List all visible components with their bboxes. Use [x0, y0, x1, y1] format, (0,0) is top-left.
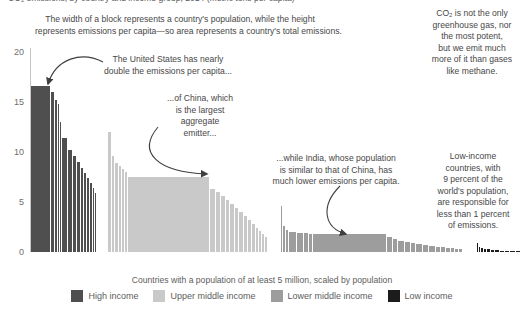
bar: [446, 248, 450, 253]
bar: [455, 249, 458, 253]
x-axis-label: Countries with a population of at least …: [30, 275, 494, 285]
bar: [108, 132, 111, 252]
legend-item-lower-middle-income: Lower middle income: [271, 290, 373, 302]
legend: High income Upper middle income Lower mi…: [0, 290, 524, 302]
bar: [484, 249, 486, 253]
bar: [125, 172, 127, 252]
legend-item-high-income: High income: [71, 290, 138, 302]
bar: [244, 216, 247, 252]
bar: [256, 228, 258, 252]
high-income-swatch: [71, 290, 83, 302]
bar: [51, 92, 54, 252]
plot-area: [0, 0, 524, 319]
bar: [84, 173, 86, 252]
emissions-chart: CO₂ emissions, by country and income gro…: [0, 0, 524, 319]
legend-label: Lower middle income: [288, 291, 373, 301]
bar: [248, 220, 251, 252]
bar: [500, 251, 504, 252]
bar: [122, 169, 124, 252]
bar: [516, 251, 520, 252]
lower-middle-income-swatch: [271, 290, 283, 302]
bar: [423, 245, 428, 252]
bar: [62, 138, 67, 252]
legend-label: Low income: [405, 291, 453, 301]
bar: [436, 247, 440, 253]
bar: [491, 250, 494, 252]
bar: [90, 183, 92, 252]
bar: [259, 231, 261, 252]
bar-india: [313, 234, 386, 252]
bar: [289, 232, 296, 253]
legend-item-upper-middle-income: Upper middle income: [153, 290, 255, 302]
bar-united-states: [31, 86, 50, 252]
bar: [283, 226, 285, 252]
bar: [230, 204, 234, 252]
legend-item-low-income: Low income: [388, 290, 453, 302]
bar: [239, 212, 243, 252]
bar: [112, 156, 114, 252]
legend-label: High income: [88, 291, 138, 301]
bar: [265, 237, 267, 252]
bar: [304, 233, 308, 252]
bar: [262, 234, 264, 252]
bar: [119, 166, 121, 252]
bar: [487, 249, 490, 252]
bar: [55, 100, 57, 252]
bar: [393, 239, 397, 252]
bar: [68, 150, 72, 252]
bar: [405, 242, 410, 252]
bar: [286, 230, 288, 252]
bar: [297, 233, 303, 253]
bar: [398, 241, 404, 252]
bar: [73, 156, 76, 252]
bar: [481, 248, 483, 253]
bar-china: [128, 177, 209, 252]
bar: [221, 196, 225, 252]
bar: [210, 189, 215, 252]
bar: [505, 251, 509, 252]
bar: [441, 247, 445, 252]
bar: [429, 246, 435, 252]
bar: [77, 162, 80, 252]
bar: [459, 249, 462, 252]
bar: [252, 224, 255, 252]
legend-label: Upper middle income: [170, 291, 255, 301]
bar: [309, 234, 312, 253]
bar: [95, 193, 96, 252]
bar: [87, 178, 89, 252]
low-income-swatch: [388, 290, 400, 302]
bar: [387, 237, 392, 252]
bar: [416, 244, 422, 252]
upper-middle-income-swatch: [153, 290, 165, 302]
bar: [216, 192, 220, 252]
bar: [451, 248, 454, 252]
bar: [235, 208, 238, 252]
bar: [411, 243, 415, 252]
bar: [115, 163, 118, 252]
bar: [226, 200, 229, 252]
bar: [81, 168, 83, 252]
bar: [495, 250, 499, 252]
bar: [510, 251, 515, 252]
